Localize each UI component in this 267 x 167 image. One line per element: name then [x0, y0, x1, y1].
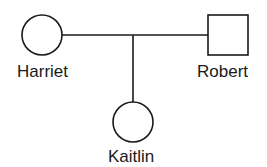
harriet-label: Harriet [17, 63, 68, 80]
robert-label: Robert [197, 63, 248, 80]
pedigree-chart [0, 0, 267, 167]
robert-male-symbol [208, 15, 248, 55]
harriet-female-symbol [22, 15, 62, 55]
kaitlin-label: Kaitlin [108, 148, 154, 165]
kaitlin-female-symbol [113, 102, 153, 142]
